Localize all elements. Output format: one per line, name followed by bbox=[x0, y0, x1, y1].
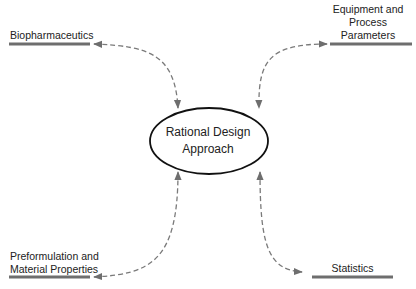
center-label-line1: Rational Design bbox=[150, 124, 266, 141]
node-equipment-line3: Parameters bbox=[322, 29, 414, 42]
node-equipment-line1: Equipment and bbox=[322, 3, 414, 16]
connector-statistics bbox=[260, 172, 302, 272]
node-preformulation-line2: Material Properties bbox=[10, 263, 99, 276]
node-statistics-label: Statistics bbox=[312, 262, 393, 275]
node-preformulation: Preformulation and Material Properties bbox=[10, 250, 99, 276]
node-equipment: Equipment and Process Parameters bbox=[322, 3, 414, 42]
center-label: Rational Design Approach bbox=[150, 124, 266, 158]
node-equipment-line2: Process bbox=[322, 16, 414, 29]
node-statistics: Statistics bbox=[312, 262, 393, 275]
node-biopharmaceutics-label: Biopharmaceutics bbox=[10, 29, 93, 42]
node-preformulation-line1: Preformulation and bbox=[10, 250, 99, 263]
center-label-line2: Approach bbox=[150, 141, 266, 158]
connector-biopharmaceutics bbox=[94, 44, 178, 108]
connector-equipment bbox=[259, 44, 327, 108]
connector-preformulation bbox=[94, 172, 178, 277]
node-biopharmaceutics: Biopharmaceutics bbox=[10, 29, 93, 42]
